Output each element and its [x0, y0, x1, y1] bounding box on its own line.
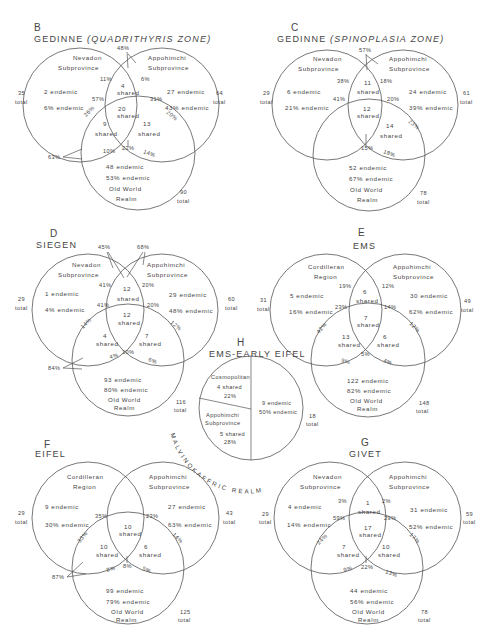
- svg-text:Subprovince: Subprovince: [205, 420, 241, 426]
- biogeography-venn-figure: B GEDINNE (QUADRITHYRIS ZONE) Nevadon Su…: [0, 0, 490, 639]
- svg-text:23%: 23%: [335, 304, 347, 310]
- svg-text:9%: 9%: [341, 357, 351, 365]
- svg-text:6% endemic: 6% endemic: [44, 104, 84, 111]
- svg-text:20%: 20%: [142, 282, 154, 288]
- svg-text:12%: 12%: [382, 283, 394, 289]
- svg-text:Old World: Old World: [109, 185, 142, 192]
- svg-text:24%: 24%: [315, 533, 328, 546]
- svg-text:12: 12: [363, 105, 371, 112]
- panel-f-title: EIFEL: [35, 449, 66, 459]
- svg-text:11%: 11%: [100, 76, 112, 82]
- svg-text:total: total: [225, 305, 238, 311]
- svg-text:29: 29: [18, 296, 25, 302]
- panel-h-title: EMS-EARLY EIFEL: [209, 349, 306, 359]
- panel-b-bottom-total: 90: [180, 189, 187, 195]
- svg-text:Nevadon: Nevadon: [313, 473, 342, 480]
- svg-text:Old World: Old World: [108, 396, 141, 403]
- svg-text:5%: 5%: [361, 351, 370, 357]
- svg-text:24 endemic: 24 endemic: [409, 88, 447, 95]
- svg-text:29: 29: [263, 90, 270, 96]
- panel-e-title: EMS: [353, 241, 376, 251]
- svg-text:shared: shared: [96, 340, 119, 347]
- svg-text:Subprovince: Subprovince: [389, 483, 430, 490]
- svg-text:79% endemic: 79% endemic: [106, 598, 150, 605]
- svg-text:10: 10: [100, 543, 108, 550]
- svg-text:10%: 10%: [103, 148, 115, 154]
- svg-text:63% endemic: 63% endemic: [168, 521, 212, 528]
- svg-text:10: 10: [382, 543, 390, 550]
- svg-text:30 endemic: 30 endemic: [410, 292, 448, 299]
- svg-text:122 endemic: 122 endemic: [347, 377, 389, 384]
- svg-text:shared: shared: [359, 531, 382, 538]
- svg-text:17: 17: [364, 524, 372, 531]
- svg-text:shared: shared: [357, 88, 380, 95]
- svg-text:84%: 84%: [48, 365, 60, 371]
- svg-text:6 endemic: 6 endemic: [287, 88, 321, 95]
- svg-text:4: 4: [103, 332, 107, 339]
- panel-h-total: 18: [309, 413, 316, 419]
- svg-text:59: 59: [466, 511, 473, 517]
- svg-text:13: 13: [143, 120, 151, 127]
- svg-text:Realm: Realm: [357, 196, 378, 203]
- svg-text:Old World: Old World: [350, 397, 383, 404]
- panel-g: G GIVET Nevadon Subprovince 4 endemic 14…: [259, 437, 476, 624]
- panel-b-left-total: 35: [18, 90, 25, 96]
- svg-text:shared: shared: [357, 321, 380, 328]
- svg-text:30% endemic: 30% endemic: [45, 521, 89, 528]
- svg-text:1 endemic: 1 endemic: [45, 290, 79, 297]
- svg-text:41%: 41%: [333, 96, 345, 102]
- panel-b-letter: B: [34, 22, 41, 33]
- svg-text:38%: 38%: [337, 78, 349, 84]
- svg-text:13%: 13%: [385, 568, 399, 578]
- svg-text:3%: 3%: [338, 498, 347, 504]
- svg-text:4: 4: [121, 82, 125, 89]
- svg-text:49: 49: [464, 298, 471, 304]
- svg-text:4% endemic: 4% endemic: [45, 306, 85, 313]
- svg-text:shared: shared: [119, 530, 142, 537]
- svg-text:148: 148: [419, 400, 430, 406]
- svg-text:12%: 12%: [169, 319, 182, 332]
- svg-text:78: 78: [421, 609, 428, 615]
- panel-h-divider-slant: [199, 398, 251, 409]
- svg-text:total: total: [15, 519, 28, 525]
- svg-text:shared: shared: [117, 295, 140, 302]
- svg-text:29 endemic: 29 endemic: [169, 291, 207, 298]
- panel-b-title: GEDINNE (QUADRITHYRIS ZONE): [34, 34, 211, 44]
- svg-text:39% endemic: 39% endemic: [409, 104, 453, 111]
- svg-text:116: 116: [176, 399, 186, 405]
- svg-text:shared: shared: [138, 130, 161, 137]
- svg-text:Nevadon: Nevadon: [72, 261, 101, 268]
- svg-text:12: 12: [123, 311, 131, 318]
- svg-text:22%: 22%: [224, 393, 236, 399]
- svg-text:Subprovince: Subprovince: [393, 273, 434, 280]
- svg-text:shared: shared: [356, 297, 379, 304]
- panel-d: D SIEGEN Nevadon Subprovince 1 endemic 4…: [15, 228, 238, 416]
- svg-text:82% endemic: 82% endemic: [347, 387, 391, 394]
- svg-text:22%: 22%: [361, 564, 373, 570]
- svg-text:Subprovince: Subprovince: [58, 271, 99, 278]
- panel-h-appohimchi: Appohimchi: [206, 412, 239, 418]
- svg-text:44 endemic: 44 endemic: [350, 587, 388, 594]
- svg-text:total: total: [213, 99, 226, 105]
- svg-text:2%: 2%: [382, 498, 391, 504]
- svg-text:shared: shared: [118, 319, 141, 326]
- svg-text:Realm: Realm: [116, 616, 137, 623]
- svg-text:14%: 14%: [384, 304, 396, 310]
- svg-text:59%: 59%: [333, 515, 345, 521]
- svg-text:6: 6: [144, 543, 148, 550]
- svg-text:26%: 26%: [82, 105, 95, 118]
- svg-text:9 endemic: 9 endemic: [45, 503, 79, 510]
- svg-text:29: 29: [262, 511, 269, 517]
- panel-c: C GEDINNE (SPINOPLASIA ZONE) Nevadon Sub…: [260, 22, 473, 211]
- svg-text:43: 43: [226, 510, 233, 516]
- svg-text:Nevadon: Nevadon: [313, 55, 342, 62]
- panel-d-title: SIEGEN: [36, 240, 77, 250]
- svg-text:23%: 23%: [146, 513, 158, 519]
- svg-text:6%: 6%: [148, 356, 158, 365]
- svg-text:Appohimchi: Appohimchi: [149, 473, 187, 480]
- svg-text:41%: 41%: [97, 302, 109, 308]
- svg-text:total: total: [174, 407, 187, 413]
- panel-h-letter: H: [237, 337, 244, 348]
- svg-text:18%: 18%: [380, 78, 392, 84]
- panel-b: B GEDINNE (QUADRITHYRIS ZONE) Nevadon Su…: [15, 22, 226, 210]
